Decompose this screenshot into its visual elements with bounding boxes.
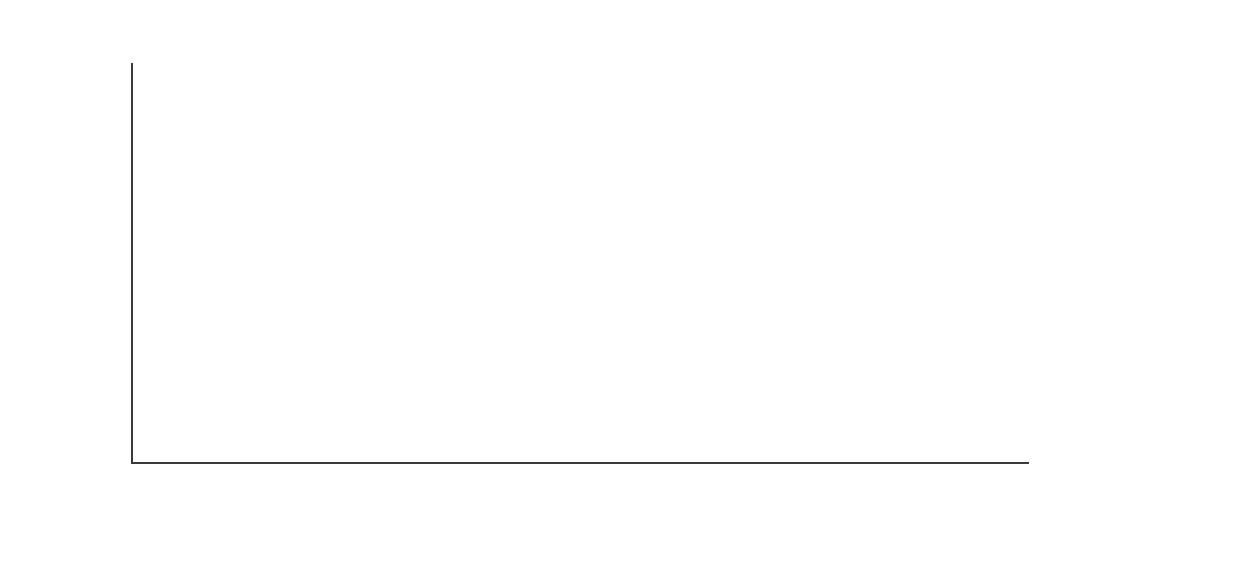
x-axis-line [131,462,1029,464]
chart-figure [0,0,1236,570]
plot-area [0,0,1236,570]
y-axis-line [131,63,133,464]
y-axis-tick-labels [22,0,114,570]
